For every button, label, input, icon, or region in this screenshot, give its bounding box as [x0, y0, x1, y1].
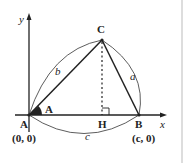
vertex-c-dot: [100, 38, 103, 41]
side-b: [29, 40, 102, 115]
side-b-label: b: [55, 65, 61, 77]
y-axis-arrow-icon: [27, 13, 32, 20]
angle-a-label: A: [45, 103, 53, 115]
right-angle-marker: [102, 108, 109, 115]
triangle-diagram: y x C A A H B (0, 0) (c, 0) b a c: [0, 0, 185, 163]
vertex-c-label: C: [97, 23, 105, 35]
foot-h-label: H: [98, 118, 107, 130]
vertex-b-coord: (c, 0): [132, 132, 156, 145]
vertex-b-dot: [137, 113, 140, 116]
vertex-a-coord: (0, 0): [12, 132, 36, 145]
side-a-label: a: [130, 70, 136, 82]
vertex-a-label: A: [20, 118, 28, 130]
vertex-b-label: B: [135, 118, 143, 130]
side-c-label: c: [85, 130, 90, 142]
vertex-a-dot: [27, 113, 30, 116]
x-axis-label: x: [159, 118, 165, 130]
y-axis-label: y: [18, 13, 24, 25]
x-axis-arrow-icon: [160, 113, 167, 118]
arc-c: [29, 115, 139, 134]
